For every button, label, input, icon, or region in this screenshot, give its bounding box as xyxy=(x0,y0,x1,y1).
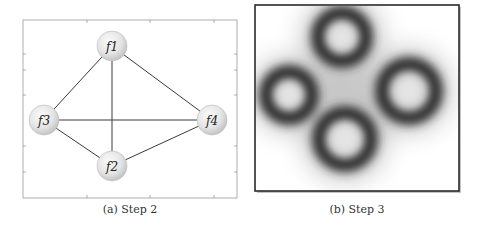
figure-canvas: f1 f3 f4 f2 xyxy=(0,0,482,229)
node-f1: f1 xyxy=(97,31,127,61)
node-label: f1 xyxy=(105,40,118,54)
node-f2: f2 xyxy=(97,151,127,181)
panel-a: f1 f3 f4 f2 xyxy=(23,20,237,198)
node-label: f3 xyxy=(37,114,50,128)
caption-a: (a) Step 2 xyxy=(100,203,160,216)
panel-b xyxy=(251,0,461,193)
node-label: f2 xyxy=(105,160,118,174)
caption-b: (b) Step 3 xyxy=(327,203,387,216)
node-f3: f3 xyxy=(29,105,59,135)
node-label: f4 xyxy=(205,114,218,128)
node-f4: f4 xyxy=(197,105,227,135)
